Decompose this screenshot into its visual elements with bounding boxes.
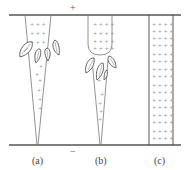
svg-text:+ + + +: + + + + <box>152 119 174 125</box>
svg-text:+ + + +: + + + + <box>152 28 174 34</box>
svg-text:+: + <box>37 87 41 93</box>
svg-text:+ + +: + + + <box>30 21 46 27</box>
panel-c-channel: + + + + + + + + + + + + + + + + + + + + … <box>149 15 174 145</box>
svg-text:+ + + +: + + + + <box>93 21 115 27</box>
diagram-canvas: + + + + + + + + + ++ ++ ++ + <box>0 0 187 170</box>
svg-text:+ + + +: + + + + <box>152 66 174 72</box>
svg-text:+: + <box>38 105 42 111</box>
svg-text:+ + + +: + + + + <box>93 38 115 44</box>
discharge-diagram: + + + + + + + + + ++ ++ ++ + <box>0 0 187 170</box>
panel-b-label: (b) <box>95 156 107 166</box>
svg-text:+ + + +: + + + + <box>152 42 174 48</box>
bottom-electrode-sign: − <box>70 147 76 157</box>
svg-text:+ + +: + + + <box>30 30 46 36</box>
svg-text:+ + + +: + + + + <box>152 58 174 64</box>
svg-text:+ + + +: + + + + <box>152 112 174 118</box>
svg-text:+ + + +: + + + + <box>152 73 174 79</box>
svg-text:+ + + +: + + + + <box>152 128 174 134</box>
svg-text:+: + <box>99 108 103 114</box>
svg-text:+ + + +: + + + + <box>152 21 174 27</box>
panel-b-channel: + + + + + + + + + + + + + + + + + ++ ++ <box>86 15 116 145</box>
top-electrode-sign: + <box>70 3 76 13</box>
svg-text:+: + <box>98 100 102 106</box>
panel-c-label: (c) <box>154 156 165 166</box>
svg-text:+ + + +: + + + + <box>152 135 174 141</box>
panel-a-channel: + + + + + + + + + ++ ++ ++ + <box>20 15 60 145</box>
svg-text:+ + + +: + + + + <box>152 104 174 110</box>
panel-a-label: (a) <box>32 156 43 166</box>
svg-text:+ + + +: + + + + <box>152 51 174 57</box>
svg-text:+ + + +: + + + + <box>152 35 174 41</box>
svg-text:+ + + +: + + + + <box>152 82 174 88</box>
panel-b-branches <box>86 56 116 80</box>
svg-text:+: + <box>38 96 42 102</box>
svg-text:+ + + +: + + + + <box>93 30 115 36</box>
svg-text:+: + <box>100 91 104 97</box>
svg-text:+ + + +: + + + + <box>93 45 115 51</box>
svg-text:+: + <box>98 116 102 122</box>
svg-text:+: + <box>39 63 43 69</box>
svg-text:+ + + +: + + + + <box>152 97 174 103</box>
svg-text:+: + <box>38 77 42 83</box>
svg-text:+ + + +: + + + + <box>152 89 174 95</box>
